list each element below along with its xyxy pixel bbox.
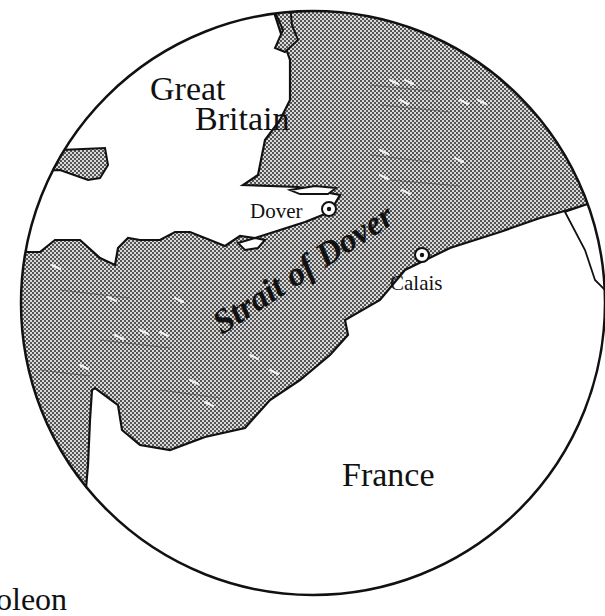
label-france: France (342, 456, 435, 493)
label-dover: Dover (250, 199, 302, 223)
label-great-britain-line2: Britain (195, 100, 289, 137)
calais-marker-icon (415, 248, 429, 262)
map-globe: Great Britain France Dover Calais Strait… (0, 0, 605, 616)
cropped-caption-text: oleon (0, 581, 67, 616)
label-calais: Calais (390, 271, 443, 295)
dover-marker-icon (322, 202, 336, 216)
